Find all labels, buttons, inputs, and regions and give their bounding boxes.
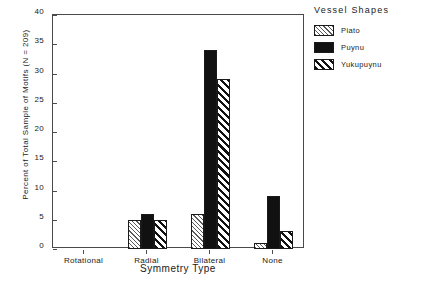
y-axis-tick-mark xyxy=(53,161,57,162)
y-axis-tick-mark xyxy=(53,103,57,104)
x-axis: RotationalRadialBilateralNone xyxy=(52,250,304,264)
y-axis-tick-mark xyxy=(53,74,57,75)
legend: Vessel Shapes PiatoPuynuYukupuynu xyxy=(314,5,421,73)
y-axis-tick-label: 5 xyxy=(39,213,44,221)
legend-item-label: Puynu xyxy=(341,43,364,52)
y-axis: 0510152025303540 xyxy=(0,14,52,248)
y-axis-tick-label: 25 xyxy=(35,96,45,104)
y-axis-tick-mark xyxy=(53,15,57,16)
plot-area xyxy=(52,14,304,248)
y-axis-tick-mark xyxy=(53,191,57,192)
y-axis-tick-label: 35 xyxy=(35,37,45,45)
x-axis-tick-mark xyxy=(146,250,147,254)
legend-title: Vessel Shapes xyxy=(314,5,421,15)
y-axis-tick-mark xyxy=(53,132,57,133)
legend-item: Yukupuynu xyxy=(314,56,421,73)
y-axis-tick-label: 10 xyxy=(35,184,45,192)
legend-item-label: Piato xyxy=(341,26,360,35)
x-axis-tick-mark xyxy=(272,250,273,254)
bar xyxy=(280,231,293,249)
legend-item-label: Yukupuynu xyxy=(341,60,382,69)
y-axis-tick-label: 15 xyxy=(35,154,45,162)
bar xyxy=(204,50,217,249)
legend-swatch xyxy=(314,59,334,70)
legend-swatch xyxy=(314,25,334,36)
y-axis-tick-label: 30 xyxy=(35,67,45,75)
y-axis-tick-mark xyxy=(53,220,57,221)
bar xyxy=(254,243,267,249)
y-axis-tick-label: 40 xyxy=(35,8,45,16)
legend-entries: PiatoPuynuYukupuynu xyxy=(314,22,421,73)
bar-chart-figure: Percent of Total Sample of Motifs (N = 2… xyxy=(0,0,423,292)
x-axis-tick-mark xyxy=(209,250,210,254)
bar xyxy=(154,220,167,249)
legend-swatch xyxy=(314,42,334,53)
legend-item: Piato xyxy=(314,22,421,39)
bar xyxy=(267,196,280,249)
bars-layer xyxy=(53,15,305,249)
y-axis-tick-label: 0 xyxy=(39,242,44,250)
x-axis-title: Symmetry Type xyxy=(52,263,304,274)
x-axis-tick-mark xyxy=(83,250,84,254)
bar xyxy=(128,220,141,249)
legend-item: Puynu xyxy=(314,39,421,56)
y-axis-tick-label: 20 xyxy=(35,125,45,133)
bar xyxy=(141,214,154,249)
bar xyxy=(217,79,230,249)
y-axis-tick-mark xyxy=(53,44,57,45)
bar xyxy=(191,214,204,249)
